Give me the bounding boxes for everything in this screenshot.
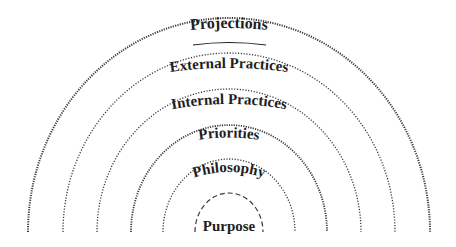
label-philosophy: Philosophy: [191, 159, 268, 181]
concentric-layers-diagram: Projections External Practices Internal …: [0, 0, 456, 247]
arc-external-practices: [63, 53, 395, 232]
arc-priorities: [131, 125, 327, 232]
label-purpose: Purpose: [203, 218, 256, 234]
label-projections: Projections: [189, 14, 268, 33]
label-internal-practices: Internal Practices: [170, 91, 289, 112]
label-priorities: Priorities: [197, 124, 260, 142]
projections-underline: [193, 43, 266, 46]
label-external-practices: External Practices: [169, 55, 290, 75]
